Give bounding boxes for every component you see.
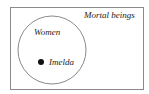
element-label: Imelda	[48, 57, 74, 67]
universe-label: Mortal beings	[83, 10, 135, 20]
set-label: Women	[34, 27, 61, 37]
element-dot	[38, 59, 44, 65]
euler-diagram: Mortal beings Women Imelda	[0, 0, 149, 94]
